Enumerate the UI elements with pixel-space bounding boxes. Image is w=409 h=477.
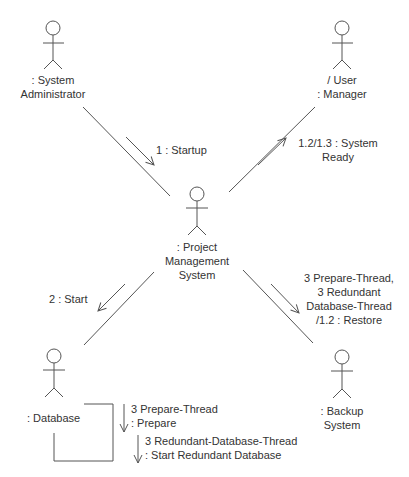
message-label-line: 3 Redundant	[296, 285, 402, 299]
actor-label-backup-system: : Backup System	[302, 404, 382, 432]
actor-label-system-administrator: : System Administrator	[13, 73, 93, 101]
message-label-line: : Prepare	[131, 416, 218, 430]
actor-backup-system-icon	[331, 350, 353, 398]
actor-label-line: : Backup	[302, 404, 382, 418]
actor-label-project-management-system: : Project Management System	[157, 240, 237, 282]
actor-database-icon	[43, 349, 65, 397]
actor-user-manager-icon	[332, 21, 353, 69]
system-ready-arrow-icon	[258, 138, 286, 165]
restore-arrow-icon	[271, 284, 299, 313]
message-label-startup: 1 : Startup	[156, 143, 207, 157]
actor-label-database: : Database	[27, 411, 80, 425]
actor-system-administrator-icon	[43, 21, 64, 69]
actor-label-line: Management	[157, 254, 237, 268]
actor-label-user-manager: / User : Manager	[302, 73, 382, 101]
actor-label-line: : Database	[27, 411, 80, 425]
actor-label-line: System	[157, 268, 237, 282]
message-label-line: Database-Thread	[296, 299, 402, 313]
message-label-prepare: 3 Prepare-Thread : Prepare	[131, 402, 218, 430]
startup-arrow-icon	[126, 137, 154, 165]
message-label-line: Ready	[286, 150, 390, 164]
actor-label-line: Administrator	[13, 87, 93, 101]
message-label-start: 2 : Start	[49, 292, 88, 306]
actor-label-line: : Manager	[302, 87, 382, 101]
message-label-line: 3 Prepare-Thread	[131, 402, 218, 416]
message-label-restore: 3 Prepare-Thread, 3 Redundant Database-T…	[296, 271, 402, 327]
message-label-line: /1.2 : Restore	[296, 313, 402, 327]
actor-label-line: System	[302, 418, 382, 432]
actor-project-management-system-icon	[186, 187, 208, 235]
link-pms-database	[84, 272, 154, 345]
message-label-line: : Start Redundant Database	[145, 448, 297, 462]
message-label-line: 1.2/1.3 : System	[286, 136, 390, 150]
actor-label-line: : System	[13, 73, 93, 87]
message-label-line: 2 : Start	[49, 292, 88, 306]
message-label-line: 1 : Startup	[156, 143, 207, 157]
message-label-line: 3 Redundant-Database-Thread	[145, 434, 297, 448]
message-label-line: 3 Prepare-Thread,	[296, 271, 402, 285]
message-label-start-redundant-database: 3 Redundant-Database-Thread : Start Redu…	[145, 434, 297, 462]
actor-label-line: / User	[302, 73, 382, 87]
message-label-system-ready: 1.2/1.3 : System Ready	[286, 136, 390, 164]
actor-label-line: : Project	[157, 240, 237, 254]
